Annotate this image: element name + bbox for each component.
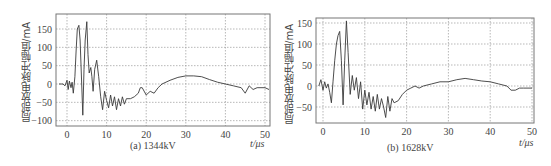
y-tick-label: −50 xyxy=(296,102,312,113)
waveform-line xyxy=(319,21,532,118)
x-tick-label: 20 xyxy=(141,129,151,140)
chart-a-xunit: t/μs xyxy=(250,138,264,149)
x-tick-label: 0 xyxy=(321,126,326,137)
chart-a-caption: (a) 1344kV xyxy=(130,140,176,151)
chart-a-ylabel: 局部放电脉冲幅值/mA xyxy=(19,22,34,122)
chart-panel-a: 01020304050150100500−50−100 局部放电脉冲幅值/mA … xyxy=(0,0,280,166)
y-tick-label: −100 xyxy=(31,115,52,126)
chart-a-plot: 01020304050150100500−50−100 xyxy=(0,0,280,140)
x-tick-label: 10 xyxy=(360,126,370,137)
y-tick-label: 100 xyxy=(297,39,312,50)
y-tick-label: 0 xyxy=(47,79,52,90)
x-tick-label: 10 xyxy=(102,129,112,140)
x-tick-label: 0 xyxy=(65,129,70,140)
x-tick-label: 40 xyxy=(220,129,230,140)
chart-b-ylabel: 局部放电脉冲幅值/mA xyxy=(282,24,297,124)
y-tick-label: 50 xyxy=(302,60,312,71)
x-tick-label: 40 xyxy=(485,126,495,137)
y-tick-label: 50 xyxy=(42,60,52,71)
x-tick-label: 30 xyxy=(181,129,191,140)
x-tick-label: 50 xyxy=(527,126,537,137)
plot-frame xyxy=(56,14,270,126)
y-tick-label: 150 xyxy=(297,18,312,29)
chart-b-xunit: t/μs xyxy=(519,137,533,148)
x-tick-label: 20 xyxy=(402,126,412,137)
chart-panel-b: 01020304050150100500−50 局部放电脉冲幅值/mA t/μs… xyxy=(275,0,551,166)
y-tick-label: 100 xyxy=(37,42,52,53)
chart-b-plot: 01020304050150100500−50 xyxy=(275,0,551,140)
x-tick-label: 30 xyxy=(443,126,453,137)
waveform-line xyxy=(59,22,269,116)
y-tick-label: −50 xyxy=(36,97,52,108)
chart-b-caption: (b) 1628kV xyxy=(387,142,433,153)
y-tick-label: 150 xyxy=(37,24,52,35)
y-tick-label: 0 xyxy=(307,81,312,92)
